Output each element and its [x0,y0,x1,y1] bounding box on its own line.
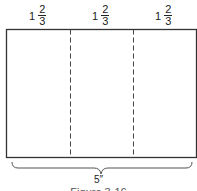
total-width-label: 5″ [0,174,197,185]
width-brace [12,162,192,174]
rectangle-diagram [0,0,197,191]
outer-rectangle [7,30,197,158]
figure-caption: Figure 3-16 [0,186,197,191]
